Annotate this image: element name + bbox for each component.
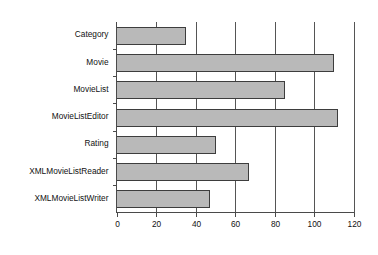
x-tick-label: 80 [271,219,281,229]
bar [117,82,285,99]
x-axis-tick-labels: 020406080100120 [115,219,362,229]
bar [117,28,186,45]
category-label: XMLMovieListReader [29,166,109,176]
x-tick-label: 60 [231,219,241,229]
bars [117,28,338,208]
bar-chart: CategoryMovieMovieListMovieListEditorRat… [0,0,378,255]
x-tick-label: 100 [308,219,322,229]
bar [117,110,338,127]
x-tick-label: 0 [115,219,120,229]
bar [117,55,334,72]
chart-canvas: CategoryMovieMovieListMovieListEditorRat… [0,0,378,255]
category-label: Movie [86,57,109,67]
x-tick-label: 40 [192,219,202,229]
bar [117,164,249,181]
category-label: MovieListEditor [52,111,109,121]
x-tick-label: 120 [348,219,362,229]
y-axis-category-labels: CategoryMovieMovieListMovieListEditorRat… [29,29,109,203]
category-label: MovieList [73,84,109,94]
x-axis-tick-marks [118,213,355,217]
bar [117,191,210,208]
y-axis-tick-marks [113,50,117,186]
category-label: Category [75,29,110,39]
category-label: Rating [85,138,109,148]
x-tick-label: 20 [152,219,162,229]
bar [117,137,216,154]
category-label: XMLMovieListWriter [34,193,108,203]
